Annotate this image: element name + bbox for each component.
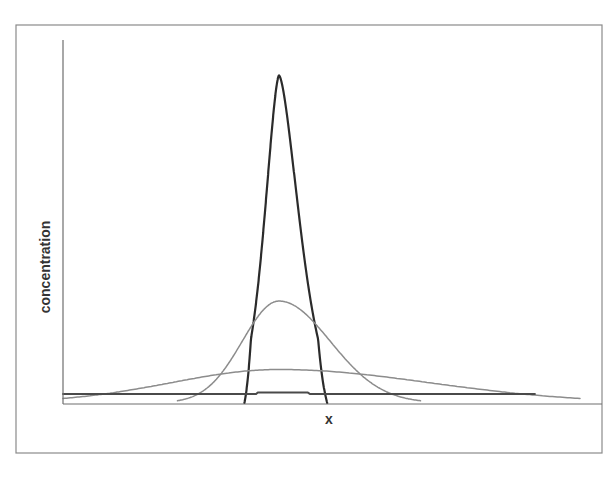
series-curve-0 xyxy=(244,75,327,403)
chart-frame xyxy=(16,25,602,453)
series-curve-1 xyxy=(178,301,421,401)
curves-group xyxy=(63,75,580,403)
y-axis-label: concentration xyxy=(37,221,53,314)
x-axis-label: x xyxy=(325,411,333,427)
concentration-chart: x concentration xyxy=(0,0,616,481)
series-curve-3 xyxy=(63,392,535,394)
